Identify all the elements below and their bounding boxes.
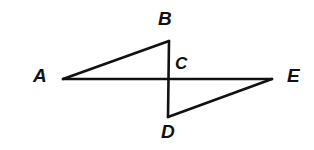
figure-background <box>0 0 314 150</box>
geometry-canvas <box>0 0 314 150</box>
vertex-label-c: C <box>175 55 187 72</box>
vertex-label-e: E <box>287 66 300 85</box>
vertex-label-a: A <box>33 66 47 85</box>
segment-BD <box>168 41 169 117</box>
vertex-label-b: B <box>158 9 172 28</box>
geometry-figure: A B C D E <box>0 0 314 150</box>
vertex-label-d: D <box>161 122 175 141</box>
